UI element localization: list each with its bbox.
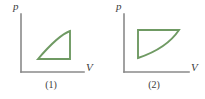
panel-1-x-axis-label: V — [86, 62, 93, 73]
panel-1: p V (1) — [0, 0, 102, 99]
panel-1-caption: (1) — [0, 80, 102, 90]
panel-1-y-axis-label: p — [13, 1, 19, 12]
panel-2: p V (2) — [103, 0, 205, 99]
panel-1-process-region — [38, 31, 70, 59]
panel-2-caption: (2) — [103, 80, 205, 90]
pv-diagram-figure: p V (1) p V (2) — [0, 0, 205, 99]
panel-2-y-axis-label: p — [116, 1, 122, 12]
panel-2-x-axis-label: V — [191, 62, 198, 73]
panel-2-process-region — [138, 30, 179, 58]
